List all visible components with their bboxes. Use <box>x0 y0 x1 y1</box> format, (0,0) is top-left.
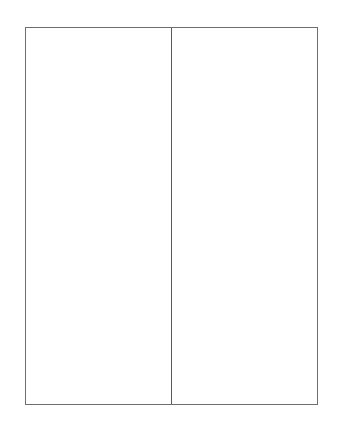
left-column-panel <box>26 28 172 404</box>
two-column-frame <box>25 27 318 405</box>
right-column-panel <box>172 28 317 404</box>
diagram-canvas <box>0 0 341 431</box>
